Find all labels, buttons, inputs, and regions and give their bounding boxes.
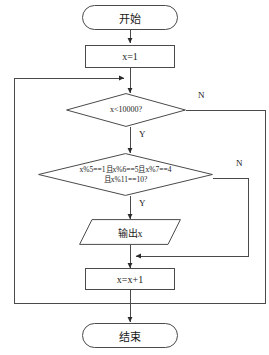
node-start-label: 开始	[119, 10, 142, 26]
node-condition-remainders[interactable]: x%5==1且x%6==5且x%7==4 且x%11==10?	[38, 153, 213, 196]
node-increment-label: x=x+1	[117, 274, 143, 285]
node-end[interactable]: 结束	[82, 323, 178, 348]
node-init-label: x=1	[122, 51, 138, 62]
node-init[interactable]: x=1	[85, 45, 175, 68]
node-condition-remainders-label: x%5==1且x%6==5且x%7==4 且x%11==10?	[78, 165, 174, 184]
node-start[interactable]: 开始	[82, 5, 178, 30]
node-condition-range-label: x<10000?	[108, 105, 144, 115]
flowchart-canvas: 开始 x=1 x<10000? x%5==1且x%6==5且x%7==4 且x%…	[0, 0, 269, 355]
edge-label-cond2-yes: Y	[139, 198, 146, 208]
node-condition-range[interactable]: x<10000?	[66, 93, 186, 127]
node-end-label: 结束	[119, 328, 142, 344]
edge-label-cond2-no: N	[236, 158, 243, 168]
node-output-label: 输出x	[118, 225, 143, 240]
node-condition-remainders-line2: 且x%11==10?	[104, 175, 148, 184]
edge-label-cond1-yes: Y	[139, 129, 146, 139]
edge-label-cond1-no: N	[198, 90, 205, 100]
node-increment[interactable]: x=x+1	[85, 268, 175, 290]
node-output[interactable]: 输出x	[79, 219, 181, 245]
node-condition-remainders-line1: x%5==1且x%6==5且x%7==4	[80, 165, 172, 174]
